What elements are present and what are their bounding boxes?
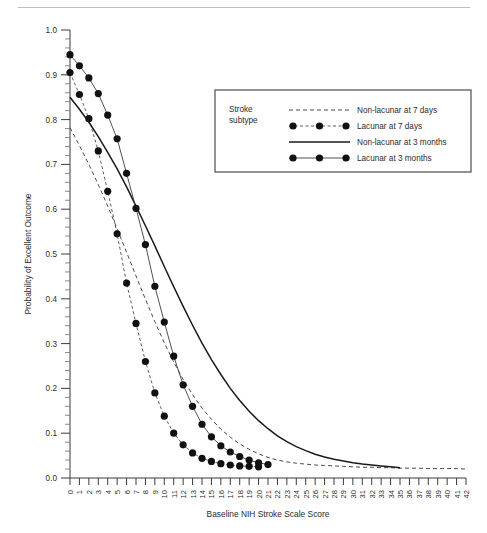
x-tick-label: 5 [113,490,122,494]
x-tick-label: 16 [217,490,226,498]
x-tick-label: 18 [236,490,245,498]
y-tick-label: 0.8 [46,116,58,125]
x-tick-label: 14 [198,490,207,498]
data-point [180,441,187,448]
y-tick-label: 0.5 [46,250,58,259]
x-axis-tick-labels: 0123456789101112131415161718192021222324… [66,490,471,498]
legend-marker-sample [316,154,323,161]
x-tick-label: 23 [283,490,292,498]
data-point [246,456,253,463]
data-point [236,453,243,460]
legend-marker-sample [316,122,323,129]
x-tick-label: 19 [245,490,254,498]
x-tick-label: 20 [255,490,264,498]
data-point [227,448,234,455]
x-tick-label: 1 [75,490,84,494]
x-tick-label: 0 [66,490,75,494]
legend-marker-sample [289,122,296,129]
y-axis-ticks [61,30,70,478]
data-point [114,135,121,142]
x-tick-label: 40 [443,490,452,498]
x-tick-label: 3 [94,490,103,494]
x-tick-label: 26 [311,490,320,498]
legend-label: Non-lacunar at 7 days [357,106,437,115]
y-tick-label: 0.9 [46,71,58,80]
data-point [189,403,196,410]
x-tick-label: 38 [424,490,433,498]
data-point [217,460,224,467]
data-point [95,90,102,97]
data-point [255,459,262,466]
x-tick-label: 31 [358,490,367,498]
x-tick-label: 42 [462,490,471,498]
x-tick-label: 6 [123,490,132,494]
data-point [180,381,187,388]
x-tick-label: 4 [104,490,113,494]
data-point [85,74,92,81]
data-point [236,462,243,469]
y-tick-label: 0.4 [46,295,58,304]
y-tick-label: 0.2 [46,384,58,393]
y-axis-title: Probability of Excellent Outcome [23,193,33,314]
data-point [161,413,168,420]
data-point [76,91,83,98]
y-tick-label: 0.0 [46,474,58,483]
data-point [66,69,73,76]
x-tick-label: 25 [302,490,311,498]
data-point [114,230,121,237]
data-point [227,461,234,468]
chart-legend: StrokesubtypeNon-lacunar at 7 daysLacuna… [215,90,471,172]
data-point [123,170,130,177]
x-tick-label: 36 [405,490,414,498]
x-tick-label: 34 [387,490,396,498]
y-tick-label: 0.7 [46,160,58,169]
data-point [170,353,177,360]
data-point [170,430,177,437]
data-point [151,389,158,396]
x-tick-label: 24 [292,490,301,498]
figure-container: 0.00.10.20.30.40.50.60.70.80.91.0 Probab… [0,0,487,533]
x-tick-label: 37 [415,490,424,498]
x-tick-label: 15 [207,490,216,498]
x-tick-label: 22 [273,490,282,498]
legend-label: Lacunar at 7 days [357,122,422,131]
x-tick-label: 2 [85,490,94,494]
legend-marker-sample [342,122,349,129]
x-tick-label: 7 [132,490,141,494]
x-tick-label: 8 [141,490,150,494]
y-axis-group: 0.00.10.20.30.40.50.60.70.80.91.0 Probab… [23,26,70,483]
data-point [142,358,149,365]
y-tick-label: 0.1 [46,429,58,438]
x-tick-label: 33 [377,490,386,498]
x-tick-label: 13 [189,490,198,498]
y-tick-label: 0.6 [46,205,58,214]
y-tick-label: 0.3 [46,340,58,349]
x-tick-label: 12 [179,490,188,498]
data-point [95,147,102,154]
data-point [104,188,111,195]
data-point [208,433,215,440]
legend-header-line1: Stroke [229,105,253,114]
x-tick-label: 28 [330,490,339,498]
x-tick-label: 41 [453,490,462,498]
legend-header-line2: subtype [229,116,258,125]
legend-label: Non-lacunar at 3 months [357,138,447,147]
chart-canvas: 0.00.10.20.30.40.50.60.70.80.91.0 Probab… [0,0,487,533]
data-point [198,455,205,462]
legend-label: Lacunar at 3 months [357,154,432,163]
data-point [132,205,139,212]
data-point [151,283,158,290]
x-axis-title: Baseline NIH Stroke Scale Score [207,509,330,519]
x-axis-group: 0123456789101112131415161718192021222324… [66,478,471,519]
legend-marker-sample [342,154,349,161]
data-point [264,461,271,468]
data-point [217,442,224,449]
y-tick-label: 1.0 [46,26,58,35]
series-non-lacunar-at-7-days [70,128,466,469]
x-axis-ticks [70,478,466,485]
x-tick-label: 27 [321,490,330,498]
data-point [66,51,73,58]
x-tick-label: 29 [339,490,348,498]
data-point [142,241,149,248]
data-point [198,421,205,428]
